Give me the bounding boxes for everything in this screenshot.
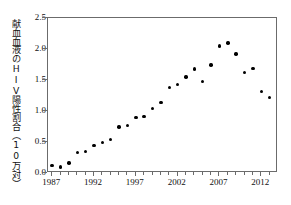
x-axis-major-tick-mark [135,172,136,176]
x-axis-tick-label: 2012 [240,177,280,187]
x-axis-tick-mark [252,172,253,175]
x-axis-tick-mark [202,172,203,175]
x-axis-tick-mark [235,172,236,175]
x-axis-major-tick-mark [93,172,94,176]
data-point [151,107,154,110]
x-axis-major-tick-mark [51,172,52,176]
x-axis-tick-label: 1987 [31,177,71,187]
x-axis-major-tick-mark [177,172,178,176]
data-point [184,75,187,78]
data-point [50,164,53,167]
x-axis-tick-mark [76,172,77,175]
x-axis-tick-label: 2007 [198,177,238,187]
x-axis-tick-mark [244,172,245,175]
data-point [101,141,104,144]
data-point [193,67,196,70]
x-axis-tick-mark [168,172,169,175]
x-axis-tick-label: 2002 [157,177,197,187]
data-point [142,115,145,118]
data-point [226,41,229,44]
data-point [268,96,271,99]
data-point [243,71,246,74]
y-axis-tick-mark [42,79,47,80]
y-axis-tick-mark [42,110,47,111]
data-point [76,151,79,154]
data-point [92,144,95,147]
x-axis-tick-mark [193,172,194,175]
chart-figure: 献血血液のHIV陽性割合（10万対） 0.00.51.01.52.02.5 19… [0,0,291,205]
data-point [176,83,179,86]
x-axis-tick-label: 1992 [73,177,113,187]
x-axis-tick-mark [210,172,211,175]
x-axis-tick-mark [126,172,127,175]
x-axis-tick-mark [85,172,86,175]
x-axis-major-tick-mark [218,172,219,176]
x-axis-tick-mark [60,172,61,175]
data-point [126,124,129,127]
x-axis-tick-mark [68,172,69,175]
plot-area [47,17,277,172]
x-axis-tick-mark [101,172,102,175]
x-axis-tick-mark [269,172,270,175]
x-axis-tick-label: 1997 [115,177,155,187]
data-point [201,80,204,83]
data-point [234,52,237,55]
data-point [260,90,263,93]
y-axis-tick-mark [42,172,47,173]
y-axis-title-label: 献血血液のHIV陽性割合（10万対） [11,19,20,187]
data-point [59,165,62,168]
x-axis-major-tick-mark [260,172,261,176]
x-axis-tick-mark [118,172,119,175]
y-axis-tick-mark [42,48,47,49]
x-axis-tick-mark [185,172,186,175]
data-point [67,161,70,164]
data-point [218,44,221,47]
data-point [251,67,254,70]
x-axis-tick-mark [152,172,153,175]
y-axis-tick-mark [42,17,47,18]
x-axis-tick-mark [110,172,111,175]
x-axis-tick-mark [143,172,144,175]
data-point [84,150,87,153]
data-point [134,116,137,119]
data-point [168,86,171,89]
x-axis-tick-mark [227,172,228,175]
data-point [209,63,212,66]
scatter-series [48,18,276,171]
data-point [117,125,120,128]
data-point [159,101,162,104]
y-axis-tick-mark [42,141,47,142]
data-point [109,138,112,141]
y-axis-tick-labels: 0.00.51.01.52.02.5 [22,0,46,205]
x-axis-tick-mark [160,172,161,175]
